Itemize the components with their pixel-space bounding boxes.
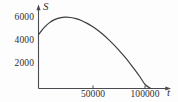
y-axis-name-label: S (43, 0, 49, 12)
y-tick-label-2000: 2000 (0, 58, 34, 68)
x-tick-label-50000: 50000 (68, 89, 118, 99)
y-tick-label-4000: 4000 (0, 35, 34, 45)
function-graph-figure: 6000 4000 2000 50000 100000 S t (0, 0, 178, 102)
x-axis-name-label: t (167, 86, 170, 98)
data-curve (39, 17, 151, 88)
y-axis-arrow-icon (36, 5, 40, 11)
x-tick-label-100000: 100000 (118, 89, 172, 99)
y-tick-label-6000: 6000 (0, 12, 34, 22)
